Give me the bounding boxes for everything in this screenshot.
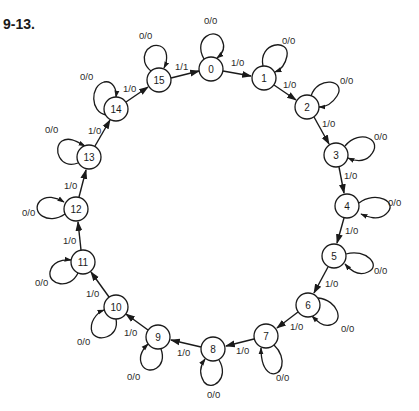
state-label: 12 — [70, 204, 82, 215]
state-node-1: 1 — [252, 66, 276, 90]
state-node-10: 10 — [104, 295, 128, 319]
loop-label-10: 0/0 — [77, 336, 90, 347]
state-node-12: 12 — [64, 197, 88, 221]
loop-label-6: 0/0 — [341, 323, 354, 334]
state-node-14: 14 — [104, 97, 128, 121]
edge-0-1 — [223, 71, 251, 76]
loop-label-1: 0/0 — [282, 35, 295, 46]
state-node-9: 9 — [146, 325, 170, 349]
state-label: 2 — [304, 102, 310, 113]
state-node-11: 11 — [71, 250, 95, 274]
edge-label-6-7: 1/0 — [290, 321, 303, 332]
state-label: 7 — [263, 331, 269, 342]
state-node-0: 0 — [199, 57, 223, 81]
loop-label-15: 0/0 — [139, 30, 152, 41]
state-label: 10 — [110, 302, 122, 313]
edge-8-9 — [171, 340, 201, 347]
loop-0 — [201, 34, 224, 59]
state-label: 15 — [153, 75, 165, 86]
loop-3 — [345, 137, 375, 161]
state-node-8: 8 — [201, 337, 225, 361]
state-label: 1 — [261, 73, 267, 84]
state-node-3: 3 — [324, 143, 348, 167]
loop-7 — [261, 345, 282, 374]
edge-label-11-12: 1/0 — [63, 235, 76, 246]
edge-label-1-2: 1/0 — [283, 79, 296, 90]
loop-8 — [201, 359, 223, 385]
loop-label-11: 0/0 — [35, 277, 48, 288]
loop-label-12: 0/0 — [22, 207, 35, 218]
loop-4 — [359, 197, 390, 218]
state-node-13: 13 — [77, 145, 101, 169]
edge-15-0 — [171, 71, 199, 78]
edge-label-10-11: 1/0 — [86, 288, 99, 299]
loop-15 — [144, 45, 166, 71]
edge-label-15-0: 1/1 — [175, 61, 188, 72]
loop-label-14: 0/0 — [80, 71, 93, 82]
state-node-5: 5 — [322, 244, 346, 268]
state-node-6: 6 — [296, 293, 320, 317]
loop-label-0: 0/0 — [204, 15, 217, 26]
edge-label-2-3: 1/0 — [322, 118, 335, 129]
edge-label-9-10: 1/0 — [124, 327, 137, 338]
edge-4-5 — [337, 218, 344, 243]
state-label: 5 — [331, 251, 337, 262]
loop-label-2: 0/0 — [340, 75, 353, 86]
state-node-7: 7 — [254, 324, 278, 348]
loop-label-5: 0/0 — [374, 265, 387, 276]
state-label: 0 — [208, 64, 214, 75]
edge-label-5-6: 1/0 — [325, 278, 338, 289]
state-label: 9 — [155, 332, 161, 343]
edge-label-3-4: 1/0 — [344, 170, 357, 181]
state-label: 8 — [210, 344, 216, 355]
loop-5 — [345, 253, 373, 274]
state-node-2: 2 — [295, 95, 319, 119]
state-node-15: 15 — [147, 68, 171, 92]
loop-label-3: 0/0 — [374, 131, 387, 142]
state-label: 13 — [83, 152, 95, 163]
loop-label-7: 0/0 — [276, 372, 289, 383]
edge-label-12-13: 1/0 — [64, 180, 77, 191]
loop-label-9: 0/0 — [127, 371, 140, 382]
state-label: 4 — [344, 201, 350, 212]
edge-label-4-5: 1/0 — [345, 225, 358, 236]
state-diagram: 0 1 2 3 4 5 6 7 — [0, 0, 419, 411]
loop-label-8: 0/0 — [207, 389, 220, 400]
edge-11-12 — [78, 222, 81, 250]
edge-12-13 — [79, 170, 86, 197]
state-label: 3 — [333, 150, 339, 161]
loop-label-13: 0/0 — [45, 124, 58, 135]
edge-label-0-1: 1/0 — [231, 57, 244, 68]
edge-label-14-15: 1/0 — [123, 83, 136, 94]
edge-label-7-8: 1/0 — [236, 345, 249, 356]
state-node-4: 4 — [335, 194, 359, 218]
state-nodes: 0 1 2 3 4 5 6 7 — [64, 57, 359, 361]
state-label: 11 — [78, 257, 89, 268]
edge-label-8-9: 1/0 — [177, 347, 190, 358]
edge-label-13-14: 1/0 — [88, 125, 101, 136]
loop-12 — [37, 197, 65, 218]
state-label: 14 — [110, 104, 122, 115]
state-label: 6 — [305, 300, 311, 311]
loop-label-4: 0/0 — [388, 197, 401, 208]
